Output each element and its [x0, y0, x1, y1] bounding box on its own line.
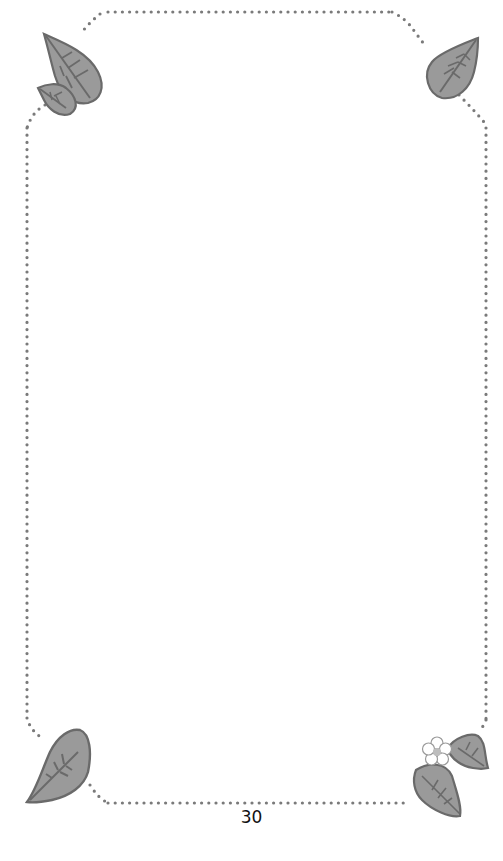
two-leaves-icon: [38, 34, 102, 115]
dotted-border-frame: [0, 0, 503, 861]
page-number: 30: [0, 807, 503, 827]
notebook-page: 30: [0, 0, 503, 861]
leaves-with-flower-icon: [414, 735, 488, 817]
leaf-icon: [427, 38, 478, 98]
flower-icon: [423, 737, 452, 765]
leaf-icon: [27, 730, 90, 803]
